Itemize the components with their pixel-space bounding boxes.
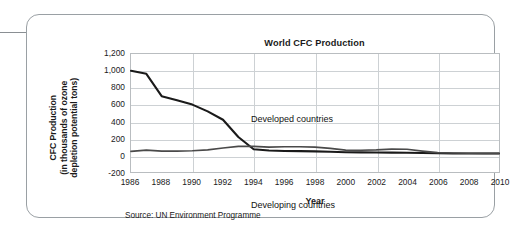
y-axis-tick: 1,000 — [91, 65, 125, 75]
x-axis-title: Year — [130, 196, 500, 206]
x-axis-tick: 1990 — [175, 177, 209, 187]
y-axis-title-line-1: CFC Production — [48, 62, 59, 194]
chart-title: World CFC Production — [127, 38, 502, 48]
x-axis-tick: 2006 — [421, 177, 455, 187]
y-axis-tick: 600 — [91, 99, 125, 109]
x-axis-tick: 1986 — [113, 177, 147, 187]
x-axis-tick: 2002 — [360, 177, 394, 187]
plot-area: Developed countries Developing countries — [130, 53, 500, 173]
x-axis-tick: 2000 — [329, 177, 363, 187]
x-axis-tick: 1992 — [206, 177, 240, 187]
series-label-developed: Developed countries — [251, 114, 333, 124]
series-lines — [131, 54, 499, 172]
chart-callout-panel: World CFC Production CFC Production (in … — [26, 14, 495, 218]
x-axis-tick: 2004 — [391, 177, 425, 187]
y-axis-tick: 200 — [91, 134, 125, 144]
x-axis-tick: 1994 — [236, 177, 270, 187]
series-line-developed — [131, 71, 499, 154]
y-axis-tick: 400 — [91, 117, 125, 127]
y-axis-title: CFC Production (in thousands of ozone de… — [48, 62, 80, 194]
y-axis-title-line-2: (in thousands of ozone — [59, 62, 70, 194]
screenshot-page: World CFC Production CFC Production (in … — [0, 0, 518, 230]
x-axis-tick: 1988 — [144, 177, 178, 187]
y-axis-tick: 1,200 — [91, 48, 125, 58]
x-axis-tick: 2010 — [483, 177, 517, 187]
x-axis-tick: 2008 — [452, 177, 486, 187]
x-axis-tick: 1996 — [267, 177, 301, 187]
y-axis-tick: 800 — [91, 82, 125, 92]
x-axis-tick: 1998 — [298, 177, 332, 187]
y-axis-title-line-3: depletion potential tons) — [69, 62, 80, 194]
y-axis-tick: 0 — [91, 151, 125, 161]
chart-source-note: Source: UN Environment Programme — [125, 211, 261, 220]
